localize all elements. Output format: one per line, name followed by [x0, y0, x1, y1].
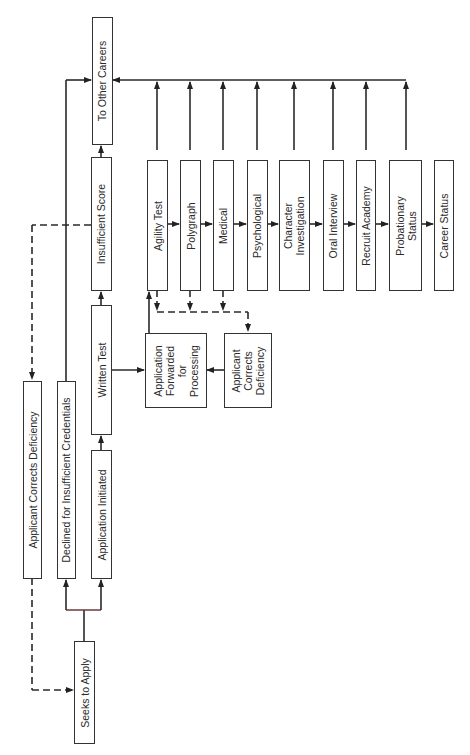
node-written-test: Written Test: [91, 305, 112, 435]
node-label: Written Test: [96, 342, 108, 397]
node-declined-insufficient-credentials: Declined for Insufficient Credentials: [57, 381, 76, 579]
node-label: Probationary Status: [394, 196, 418, 256]
node-label: Psychological: [252, 193, 264, 257]
node-application-forwarded: Application Forwarded for Processing: [145, 333, 207, 408]
node-label: Declined for Insufficient Credentials: [61, 398, 73, 563]
node-psychological: Psychological: [247, 160, 268, 291]
node-probationary-status: Probationary Status: [389, 160, 422, 291]
node-label: Career Status: [438, 193, 450, 258]
node-medical: Medical: [213, 160, 234, 291]
node-label: Polygraph: [185, 202, 197, 249]
node-recruit-academy: Recruit Academy: [356, 160, 376, 291]
node-polygraph: Polygraph: [180, 160, 201, 291]
node-label: Character Investigation: [283, 196, 307, 255]
node-label: Application Initiated: [96, 469, 108, 560]
node-seeks-to-apply: Seeks to Apply: [74, 641, 95, 744]
node-label: Insufficient Score: [96, 184, 108, 264]
node-agility-test: Agility Test: [147, 160, 168, 291]
node-label: Application Forwarded for Processing: [152, 345, 200, 397]
node-insufficient-score: Insufficient Score: [91, 157, 112, 291]
node-to-other-careers: To Other Careers: [92, 17, 113, 145]
node-applicant-corrects-deficiency: Applicant Corrects Deficiency: [23, 381, 42, 579]
node-applicant-corrects-deficiency-2: Applicant Corrects Deficiency: [224, 333, 272, 408]
node-label: Seeks to Apply: [79, 658, 91, 727]
node-label: To Other Careers: [97, 41, 109, 122]
node-label: Agility Test: [152, 201, 164, 251]
node-application-initiated: Application Initiated: [91, 450, 112, 579]
node-label: Applicant Corrects Deficiency: [27, 411, 39, 548]
node-label: Recruit Academy: [360, 186, 372, 265]
node-label: Oral Interview: [328, 193, 340, 258]
node-career-status: Career Status: [434, 160, 454, 291]
node-character-investigation: Character Investigation: [279, 160, 310, 291]
node-oral-interview: Oral Interview: [323, 160, 344, 291]
node-label: Medical: [218, 207, 230, 243]
node-label: Applicant Corrects Deficiency: [230, 346, 266, 394]
